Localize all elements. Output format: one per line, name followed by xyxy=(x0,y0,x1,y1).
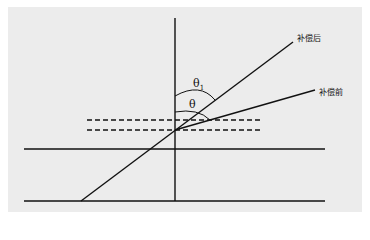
after-compensation-label: 补偿后 xyxy=(297,32,321,43)
theta1-symbol: θ xyxy=(193,77,200,90)
before-compensation-ray xyxy=(175,90,315,130)
theta-label: θ xyxy=(189,98,196,111)
theta1-label: θ1 xyxy=(193,77,204,92)
theta-arc xyxy=(175,111,210,120)
theta1-subscript: 1 xyxy=(200,84,204,92)
after-compensation-ray xyxy=(81,42,293,201)
before-compensation-label: 补偿前 xyxy=(319,86,343,97)
